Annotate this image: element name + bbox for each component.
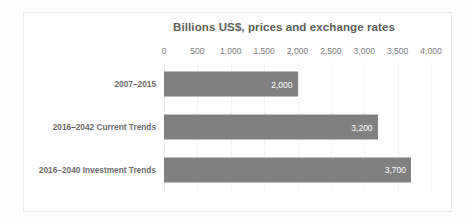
chart-title: Billions US$, prices and exchange rates [154,21,414,33]
x-tick-label: 3,000 [354,46,375,56]
x-tick-label: 3,500 [387,46,408,56]
category-label: 2007–2015 [114,79,156,89]
x-tick-label: 2,000 [287,46,308,56]
bar-value-label: 3,700 [385,165,406,175]
x-tick-label: 2,500 [320,46,341,56]
x-axis-tick-labels: 05001,0001,5002,0002,5003,0003,5004,000 [164,46,431,60]
x-tick-label: 500 [190,46,204,56]
x-tick-label: 0 [162,46,167,56]
x-tick-label: 4,000 [420,46,441,56]
category-label: 2016–2040 Investment Trends [39,165,156,175]
category-label: 2016–2042 Current Trends [53,122,156,132]
bar[interactable]: 2,000 [164,72,298,97]
x-tick-label: 1,500 [253,46,274,56]
bar-value-label: 2,000 [271,79,292,89]
bar[interactable]: 3,700 [164,157,411,182]
gridline-4000 [431,63,432,191]
x-tick-label: 1,000 [220,46,241,56]
bar[interactable]: 3,200 [164,115,378,140]
chart-frame: Billions US$, prices and exchange rates … [23,12,452,212]
category-axis-labels: 2007–20152016–2042 Current Trends2016–20… [24,63,160,191]
plot-area: 2,0003,2003,700 [164,63,431,191]
bar-value-label: 3,200 [351,122,372,132]
